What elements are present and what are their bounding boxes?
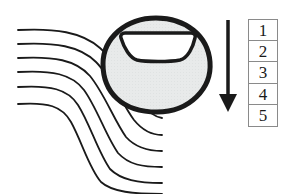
legend-item-5[interactable]: 5 [249, 105, 277, 126]
legend-item-3[interactable]: 3 [249, 62, 277, 83]
arrow-head-icon [219, 94, 237, 112]
legend-item-4[interactable]: 4 [249, 84, 277, 105]
inner-trapezoid [121, 33, 196, 62]
flow-line-6 [18, 104, 162, 194]
numbered-legend: 1 2 3 4 5 [248, 19, 278, 127]
figure-container: 1 2 3 4 5 [0, 0, 293, 194]
downward-arrow [219, 20, 237, 112]
legend-item-1[interactable]: 1 [249, 20, 277, 41]
legend-item-2[interactable]: 2 [249, 41, 277, 62]
